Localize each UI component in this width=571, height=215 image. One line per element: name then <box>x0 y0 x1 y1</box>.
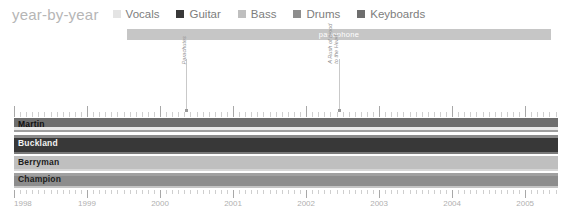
month-tick <box>239 190 240 194</box>
month-tick <box>312 112 313 117</box>
month-tick <box>184 190 185 194</box>
legend-item-keyboards[interactable]: Keyboards <box>357 8 425 20</box>
month-tick <box>464 112 465 117</box>
month-tick <box>361 190 362 194</box>
month-tick <box>446 112 447 117</box>
month-tick <box>263 190 264 194</box>
month-tick <box>203 190 204 194</box>
month-tick <box>239 112 240 117</box>
month-tick <box>32 112 33 117</box>
month-tick <box>251 190 252 194</box>
month-tick <box>373 190 374 194</box>
month-tick <box>209 112 210 117</box>
month-tick <box>263 112 264 117</box>
member-row[interactable]: Champion <box>14 173 558 188</box>
instrument-bar-guitar[interactable] <box>14 138 558 152</box>
month-tick <box>172 112 173 117</box>
month-tick <box>501 112 502 117</box>
month-tick <box>495 190 496 194</box>
month-tick <box>32 190 33 194</box>
album-annotation[interactable]: Parachutes <box>186 42 187 112</box>
month-tick <box>385 190 386 194</box>
year-tick <box>160 190 161 198</box>
legend-item-vocals[interactable]: Vocals <box>113 8 160 20</box>
month-tick <box>276 112 277 117</box>
month-tick <box>117 112 118 117</box>
month-tick <box>476 112 477 117</box>
month-tick <box>294 190 295 194</box>
month-tick <box>556 112 557 117</box>
annotation-stem-line <box>339 59 340 109</box>
instrument-bar-keyboards[interactable] <box>14 118 558 127</box>
legend: VocalsGuitarBassDrumsKeyboards <box>113 8 426 20</box>
month-tick <box>489 112 490 117</box>
month-tick <box>531 190 532 194</box>
album-annotation-label: A Rush of Bloodto the Head <box>327 24 340 64</box>
instrument-bar-keyboards[interactable] <box>14 152 558 154</box>
axis-tick-label: 2001 <box>224 199 242 208</box>
month-tick <box>519 190 520 194</box>
month-tick <box>44 190 45 194</box>
month-tick <box>543 112 544 117</box>
axis-tick-label: 2005 <box>516 199 534 208</box>
month-tick <box>464 190 465 194</box>
legend-item-guitar[interactable]: Guitar <box>176 8 220 20</box>
year-tick <box>233 106 234 117</box>
month-tick <box>416 112 417 117</box>
member-name-label: Buckland <box>18 138 58 148</box>
instrument-bar-drums[interactable] <box>14 176 558 186</box>
year-tick <box>87 190 88 198</box>
month-tick <box>221 112 222 117</box>
month-tick <box>130 112 131 117</box>
member-row[interactable]: Buckland <box>14 135 558 155</box>
month-tick <box>69 112 70 117</box>
year-tick <box>14 106 15 117</box>
legend-item-bass[interactable]: Bass <box>238 8 277 20</box>
month-tick <box>81 112 82 117</box>
month-tick <box>38 190 39 194</box>
month-tick <box>203 112 204 117</box>
month-tick <box>99 190 100 194</box>
page-title: year-by-year <box>12 6 99 23</box>
month-tick <box>257 190 258 194</box>
legend-item-label: Keyboards <box>370 8 425 20</box>
year-tick <box>525 190 526 198</box>
instrument-bar-vocals[interactable] <box>14 186 558 188</box>
member-name-label: Berryman <box>18 157 59 167</box>
year-tick <box>233 190 234 198</box>
month-tick <box>324 112 325 117</box>
month-tick <box>288 112 289 117</box>
year-tick <box>87 106 88 117</box>
member-name-label: Martin <box>18 119 45 129</box>
month-tick <box>410 112 411 117</box>
member-row[interactable]: Martin <box>14 118 558 134</box>
month-tick <box>111 112 112 117</box>
album-annotation-line: to the Head <box>334 24 340 64</box>
instrument-bar-keyboards[interactable] <box>14 169 558 171</box>
month-tick <box>130 190 131 194</box>
legend-item-label: Guitar <box>189 8 220 20</box>
month-tick <box>227 190 228 194</box>
month-tick <box>476 190 477 194</box>
instrument-bar-guitar[interactable] <box>14 130 558 132</box>
month-tick <box>440 190 441 194</box>
month-tick <box>483 190 484 194</box>
legend-swatch-icon <box>293 10 301 18</box>
month-tick <box>166 190 167 194</box>
month-tick <box>458 190 459 194</box>
year-tick <box>306 190 307 198</box>
year-tick <box>306 106 307 117</box>
month-tick <box>282 190 283 194</box>
album-annotation[interactable]: A Rush of Bloodto the Head <box>339 42 340 112</box>
member-row[interactable]: Berryman <box>14 156 558 172</box>
legend-item-drums[interactable]: Drums <box>293 8 340 20</box>
month-tick <box>397 190 398 194</box>
instrument-bar-bass[interactable] <box>14 156 558 169</box>
axis-tick-label: 2000 <box>151 199 169 208</box>
month-tick <box>178 112 179 117</box>
album-annotation-label: Parachutes <box>180 36 186 64</box>
month-tick <box>51 190 52 194</box>
album-annotation-line: Parachutes <box>180 36 186 64</box>
month-tick <box>270 112 271 117</box>
month-tick <box>531 112 532 117</box>
